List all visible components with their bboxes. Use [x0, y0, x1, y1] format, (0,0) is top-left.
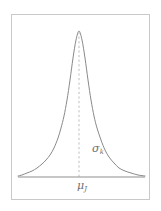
sigma-symbol: σ [92, 142, 100, 155]
mu-mean-label: μJ [77, 180, 87, 193]
figure-root: σk μJ [0, 0, 161, 211]
sigma-standard-deviation-label: σk [92, 143, 104, 156]
mu-subscript: J [84, 185, 87, 193]
sigma-subscript: k [100, 148, 104, 156]
density-curve-path [18, 31, 145, 176]
